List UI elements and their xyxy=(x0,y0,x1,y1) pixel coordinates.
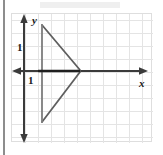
y-axis-arrow-down xyxy=(20,134,27,143)
x-axis-label: x xyxy=(139,78,145,89)
x-axis-unit-label: 1 xyxy=(28,75,34,86)
figure-root: y x 1 1 xyxy=(0,0,163,155)
v-shape-lower-ray xyxy=(42,72,80,122)
y-axis-arrow-up xyxy=(20,14,27,23)
y-axis-label: y xyxy=(32,15,37,26)
y-axis-unit-label: 1 xyxy=(17,42,23,53)
x-axis-arrow-left xyxy=(12,67,21,74)
x-axis-arrow-right xyxy=(139,67,148,74)
v-shape-upper-ray xyxy=(42,25,80,70)
